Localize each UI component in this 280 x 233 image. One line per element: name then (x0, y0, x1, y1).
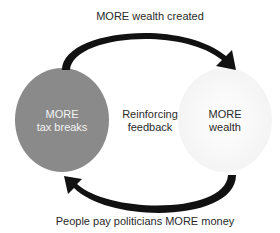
wealth-node-label: MORE wealth (178, 108, 272, 134)
bottom-arrow-icon (64, 175, 236, 213)
top-edge-label: MORE wealth created (60, 10, 240, 23)
feedback-loop-diagram: MORE wealth created MORE tax breaks Rein… (0, 0, 280, 233)
tax-breaks-line1: MORE (15, 108, 109, 121)
wealth-line2: wealth (178, 121, 272, 134)
top-arrow-icon (62, 33, 236, 70)
tax-breaks-line2: tax breaks (15, 121, 109, 134)
wealth-line1: MORE (178, 108, 272, 121)
bottom-edge-label: People pay politicians MORE money (40, 215, 250, 228)
tax-breaks-node-label: MORE tax breaks (15, 108, 109, 134)
